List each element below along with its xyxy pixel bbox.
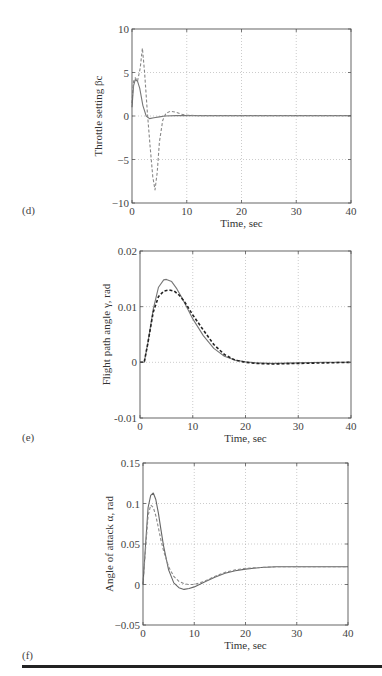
series-dashed xyxy=(132,48,351,190)
y-tick-label: −0.05 xyxy=(115,619,141,631)
y-tick-label: 0.02 xyxy=(118,245,137,257)
y-tick-label: −10 xyxy=(112,197,130,209)
chart-angle-of-attack: 010203040−0.0500.050.10.15Time, secAngle… xyxy=(103,457,354,651)
bottom-rule xyxy=(22,665,382,668)
panel-label-d: (d) xyxy=(22,204,35,217)
x-tick-label: 0 xyxy=(129,205,135,217)
y-tick-label: 0.15 xyxy=(121,457,141,469)
y-axis-label: Angle of attack α, rad xyxy=(103,496,115,592)
x-tick-label: 10 xyxy=(189,627,201,639)
x-tick-label: 10 xyxy=(187,420,199,432)
y-tick-label: 0 xyxy=(135,579,141,591)
y-tick-label: 0.01 xyxy=(118,301,137,313)
y-tick-label: 5 xyxy=(124,67,130,79)
y-tick-label: -0.01 xyxy=(114,412,137,424)
panel-label-e: (e) xyxy=(22,431,35,444)
y-tick-label: 0 xyxy=(132,356,138,368)
y-tick-label: 0.05 xyxy=(121,538,141,550)
x-tick-label: 10 xyxy=(181,205,193,217)
x-tick-label: 40 xyxy=(346,205,358,217)
y-tick-label: 10 xyxy=(118,23,130,35)
y-axis-label: Throttle setting βc xyxy=(92,76,104,157)
x-axis-label: Time, sec xyxy=(224,432,266,444)
panel-label-f: (f) xyxy=(22,649,33,662)
x-tick-label: 20 xyxy=(240,627,252,639)
x-tick-label: 30 xyxy=(291,627,303,639)
x-tick-label: 40 xyxy=(346,420,358,432)
chart-flight-path-angle: 010203040-0.0100.010.02Time, secFlight p… xyxy=(100,245,357,444)
series-solid xyxy=(132,80,351,119)
x-tick-label: 0 xyxy=(140,627,146,639)
y-tick-label: −5 xyxy=(117,154,129,166)
y-tick-label: 0 xyxy=(124,110,130,122)
x-tick-label: 20 xyxy=(236,205,248,217)
x-tick-label: 0 xyxy=(137,420,143,432)
x-tick-label: 20 xyxy=(240,420,252,432)
y-tick-label: 0.1 xyxy=(126,498,140,510)
x-tick-label: 40 xyxy=(343,627,355,639)
y-axis-label: Flight path angle γ, rad xyxy=(100,283,112,385)
figure: 010203040−10−50510Time, secThrottle sett… xyxy=(0,0,382,676)
x-axis-label: Time, sec xyxy=(224,639,266,651)
x-tick-label: 30 xyxy=(293,420,305,432)
x-axis-label: Time, sec xyxy=(220,217,262,229)
chart-throttle-setting: 010203040−10−50510Time, secThrottle sett… xyxy=(92,23,357,229)
x-tick-label: 30 xyxy=(291,205,303,217)
